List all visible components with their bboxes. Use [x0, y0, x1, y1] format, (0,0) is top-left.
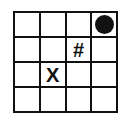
- hash-glyph: #: [73, 40, 84, 60]
- grid-cell-r4c3[interactable]: [67, 88, 93, 113]
- grid-cell-r2c4[interactable]: [92, 38, 118, 63]
- grid-cell-r2c3[interactable]: #: [67, 38, 93, 63]
- puzzle-grid: # X: [13, 11, 118, 113]
- grid-cell-r1c1[interactable]: [15, 13, 41, 38]
- grid-cell-r3c2[interactable]: X: [41, 63, 67, 88]
- grid-cell-r1c3[interactable]: [67, 13, 93, 38]
- grid-cell-r2c2[interactable]: [41, 38, 67, 63]
- x-glyph: X: [46, 65, 59, 85]
- grid-cell-r3c1[interactable]: [15, 63, 41, 88]
- grid-cell-r4c4[interactable]: [92, 88, 118, 113]
- filled-circle-icon: [95, 15, 114, 34]
- grid-cell-r3c4[interactable]: [92, 63, 118, 88]
- grid-cell-r4c1[interactable]: [15, 88, 41, 113]
- grid-cell-r3c3[interactable]: [67, 63, 93, 88]
- grid-cell-r1c4[interactable]: [92, 13, 118, 38]
- grid-cell-r1c2[interactable]: [41, 13, 67, 38]
- grid-cell-r4c2[interactable]: [41, 88, 67, 113]
- grid-cell-r2c1[interactable]: [15, 38, 41, 63]
